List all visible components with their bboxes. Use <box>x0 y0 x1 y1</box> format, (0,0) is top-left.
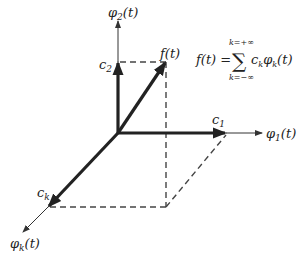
formula-upper-limit: k=+∞ <box>229 38 254 47</box>
phi1-label: φ1(t) <box>266 126 296 143</box>
formula-lhs: f(t) = <box>195 52 231 67</box>
f-vector <box>118 63 165 133</box>
ck-vector <box>49 133 118 206</box>
formula-sum-symbol: ∑ <box>232 49 247 73</box>
dash-corner-to-c1 <box>166 135 226 207</box>
f-label: f(t) <box>159 46 180 61</box>
phik-label: φk(t) <box>10 236 40 253</box>
formula-term: ckφk(t) <box>251 52 292 69</box>
c2-label: c2 <box>99 57 112 74</box>
diagram-canvas: φ2(t) φ1(t) φk(t) c2 c1 ck f(t) f(t) = k… <box>0 0 305 257</box>
component-vectors <box>49 63 225 206</box>
formula-lower-limit: k=−∞ <box>229 73 254 82</box>
phi2-label: φ2(t) <box>108 5 138 22</box>
expansion-formula: f(t) = k=+∞ ∑ k=−∞ ckφk(t) <box>195 38 292 82</box>
c1-label: c1 <box>212 112 225 129</box>
phik-axis <box>23 207 48 232</box>
ck-label: ck <box>37 185 50 202</box>
